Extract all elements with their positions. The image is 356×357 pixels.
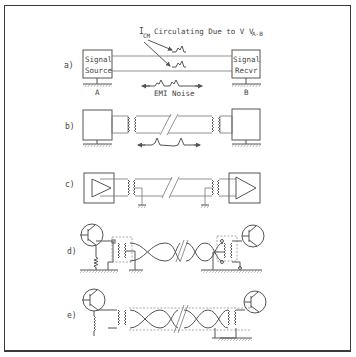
panel-d-label: d): [67, 247, 77, 256]
transformer-coil-b-left-2: [135, 117, 137, 132]
transformer-coil-c-left-2: [134, 180, 136, 195]
ground-icon-c-right: [201, 205, 209, 208]
circulating-text: Circulating Due to V: [154, 27, 245, 36]
ground-a-icon: [83, 84, 112, 87]
cable-break-e: [174, 305, 184, 333]
transformer-coil-d-right-2: [231, 243, 233, 258]
icm-subscript: CM: [143, 32, 151, 39]
panel-d: d): [67, 224, 264, 273]
panel-c-label: c): [65, 180, 75, 189]
noise-wave-b: [140, 138, 198, 146]
panel-b: b): [65, 109, 261, 147]
inductor-icon-e: [94, 316, 96, 331]
ground-icon-e: [218, 338, 252, 341]
transformer-coil-e-right-2: [235, 310, 237, 325]
transformer-coil-c-right-1: [212, 180, 214, 195]
shield-d-right: [217, 236, 237, 261]
driver-amplifier-icon: [92, 179, 111, 197]
pulse-bottom: [172, 61, 186, 67]
driver-box-c: [84, 173, 114, 203]
transformer-coil-c-right-2: [218, 180, 220, 195]
ground-a-label: A: [95, 88, 100, 97]
panel-e-label: e): [67, 311, 77, 320]
emi-noise-wave: [143, 80, 200, 86]
ground-icon-b-right: [232, 144, 261, 147]
cable-break-right: [167, 114, 178, 135]
panel-b-label: b): [65, 122, 75, 131]
emi-noise-label: EMI Noise: [154, 89, 195, 98]
resistor-icon-d: [94, 257, 98, 268]
transformer-coil-e-left-2: [125, 310, 127, 325]
diagram-canvas: a) I CM Circulating Due to V A-B V Signa…: [0, 0, 356, 357]
signal-source-label-1: Signal: [85, 55, 112, 64]
transformer-coil-e-left-1: [118, 310, 120, 325]
transformer-coil-b-right-1: [212, 117, 214, 132]
signal-receiver-label-1: Signal: [233, 55, 260, 64]
ground-icon-d-left: [80, 270, 118, 273]
icm-arrow-2: [144, 42, 170, 66]
receiver-box-b: [232, 109, 260, 140]
signal-receiver-label-2: Recvr: [235, 66, 258, 75]
transformer-coil-d-left-1: [118, 243, 120, 258]
transformer-coil-c-left-1: [128, 180, 130, 195]
ground-icon-d-right: [201, 270, 262, 273]
transformer-coil-d-left-2: [125, 243, 127, 258]
panel-a-label: a): [64, 61, 74, 70]
signal-source-label-2: Source: [85, 66, 113, 75]
ground-b-icon: [232, 84, 261, 87]
ground-icon-b-left: [83, 144, 112, 147]
receiver-amplifier-icon: [236, 177, 256, 199]
panel-e: e): [67, 289, 266, 341]
ground-b-label: B: [244, 88, 249, 97]
panel-c: c): [65, 173, 260, 208]
source-box-b: [83, 110, 112, 140]
pulse-top: [172, 46, 186, 52]
vab-subscript: A-B: [252, 30, 263, 37]
transformer-coil-d-right-1: [224, 243, 226, 258]
cable-break-left: [160, 114, 171, 135]
ground-icon-c-left: [138, 205, 146, 208]
transformer-coil-e-right-1: [228, 310, 230, 325]
v-label: V: [249, 27, 254, 36]
panel-a: a) I CM Circulating Due to V A-B V Signa…: [64, 27, 263, 98]
